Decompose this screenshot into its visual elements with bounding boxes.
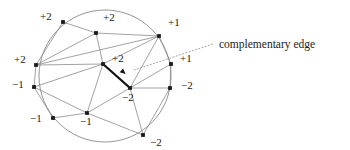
graph-edge — [87, 113, 143, 135]
graph-vertex — [61, 20, 65, 24]
vertex-label: +2 — [103, 11, 115, 23]
graph-edge — [96, 33, 103, 64]
vertex-label: +2 — [112, 52, 124, 64]
graph-edge — [34, 65, 36, 87]
graph-edge — [36, 64, 103, 65]
vertex-label: −1 — [30, 112, 42, 124]
vertex-label: +2 — [14, 53, 26, 65]
vertex-label: −2 — [150, 136, 162, 148]
highlighted-complementary-edge — [103, 64, 130, 88]
vertex-label: +2 — [40, 10, 52, 22]
graph-vertex — [141, 133, 145, 137]
vertex-label: −2 — [122, 91, 134, 103]
graph-vertex — [32, 85, 36, 89]
highlighted-edge-layer — [103, 64, 130, 88]
complementary-edge-diagram: +2+2+1+2+2+1−1−2−2−1−1−2 complementary e… — [0, 0, 350, 150]
vertex-label: −2 — [181, 79, 193, 91]
graph-vertex — [51, 116, 55, 120]
graph-edge — [130, 36, 159, 88]
vertex-label: +1 — [168, 16, 180, 28]
graph-vertex — [94, 31, 98, 35]
vertex-label: −1 — [80, 115, 92, 127]
complementary-edge-annotation: complementary edge — [219, 38, 315, 51]
graph-edge — [34, 64, 103, 87]
edge-direction-arrowhead — [120, 68, 128, 76]
graph-vertex — [34, 63, 38, 67]
graph-edge — [130, 64, 171, 88]
graph-vertex — [169, 62, 173, 66]
annotation-leader-line — [134, 44, 213, 70]
graph-edge — [96, 33, 159, 36]
vertex-label: −1 — [12, 78, 24, 90]
graph-edge — [159, 36, 171, 64]
graph-vertex — [157, 34, 161, 38]
vertex-label: +1 — [180, 52, 192, 64]
graph-edge — [36, 22, 63, 65]
graph-vertex — [168, 86, 172, 90]
graph-vertex — [128, 86, 132, 90]
graph-vertex — [101, 62, 105, 66]
graph-edge — [143, 88, 170, 135]
graph-edge — [87, 64, 103, 113]
graph-edge — [63, 22, 96, 33]
